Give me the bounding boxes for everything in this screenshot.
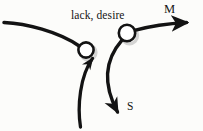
edge-incoming-left bbox=[4, 23, 79, 47]
node-right[interactable] bbox=[119, 25, 135, 41]
label-lack-desire: lack, desire bbox=[71, 10, 125, 22]
node-left[interactable] bbox=[78, 42, 93, 57]
diagram-canvas: lack, desire M S bbox=[0, 0, 203, 131]
edge-m-arrow bbox=[135, 23, 187, 31]
label-s: S bbox=[127, 101, 133, 113]
label-m: M bbox=[164, 3, 175, 16]
edge-s-arrow bbox=[108, 40, 122, 112]
edge-up-to-left-node bbox=[79, 58, 92, 127]
